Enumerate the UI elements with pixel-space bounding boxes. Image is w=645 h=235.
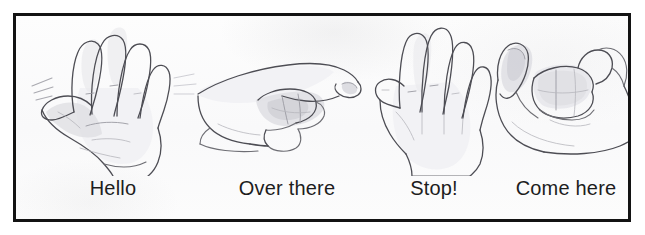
gesture-illustration-figure: Hello [0, 0, 645, 235]
gesture-caption-over-there: Over there [192, 177, 382, 200]
gesture-caption-hello: Hello [22, 177, 204, 200]
waving-hand-drawing [22, 16, 204, 176]
gesture-panel-hello: Hello [22, 16, 204, 219]
illustration-plate-frame: Hello [13, 13, 631, 222]
gesture-caption-come-here: Come here [486, 177, 631, 200]
pointing-hand-drawing [192, 16, 382, 176]
gesture-panel-come-here: Come here [486, 16, 631, 219]
gesture-panel-over-there: Over there [192, 16, 382, 219]
motion-lines-left [32, 78, 53, 100]
beckoning-hand-drawing [486, 16, 631, 176]
